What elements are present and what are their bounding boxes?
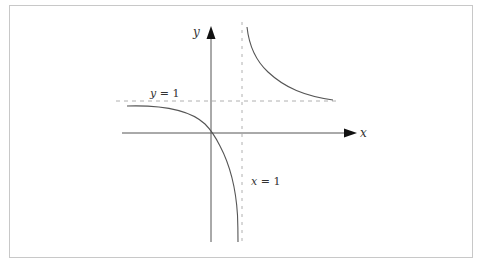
x-axis-label: x bbox=[360, 126, 367, 140]
curve-right-branch bbox=[247, 27, 333, 100]
x-axis-arrow-icon bbox=[344, 129, 357, 138]
curve-left-branch bbox=[127, 106, 238, 242]
vertical-asymptote-label: x = 1 bbox=[251, 175, 280, 188]
horizontal-asymptote-label: y = 1 bbox=[149, 87, 179, 100]
function-graph: y x y = 1 x = 1 bbox=[0, 0, 480, 264]
y-axis-label: y bbox=[192, 25, 200, 39]
y-axis-arrow-icon bbox=[207, 26, 216, 39]
